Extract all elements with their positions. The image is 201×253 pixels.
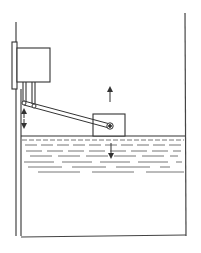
switch-assembly — [12, 42, 50, 104]
switch-housing — [17, 48, 50, 82]
pivot-mid — [32, 104, 36, 108]
liquid — [21, 136, 185, 172]
mount-plate — [12, 42, 17, 89]
tank-bottom — [21, 235, 186, 237]
pivot-left — [22, 101, 26, 105]
tank-right-wall — [185, 13, 186, 236]
pivot-float-inner — [109, 125, 112, 128]
level-switch-diagram — [0, 0, 201, 253]
